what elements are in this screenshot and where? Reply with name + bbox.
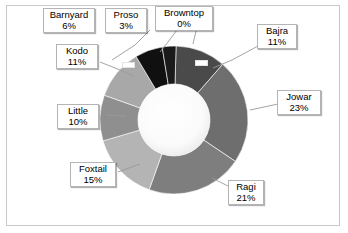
callout-little[interactable]: Little 10% (57, 104, 99, 129)
callout-barnyard-percent: 6% (47, 21, 91, 32)
callout-kodo-percent: 11% (60, 57, 94, 68)
callout-jowar-name: Jowar (281, 92, 317, 103)
callout-ragi-name: Ragi (232, 182, 260, 193)
callout-ragi-percent: 21% (232, 193, 260, 204)
leader-line-bajra (213, 46, 258, 68)
callout-foxtail-name: Foxtail (74, 164, 112, 175)
callout-bajra-percent: 11% (261, 37, 293, 48)
callout-barnyard[interactable]: Barnyard 6% (43, 8, 95, 33)
callout-proso-name: Proso (109, 10, 143, 21)
slice-marker-kodo (122, 62, 135, 68)
leader-line-browntop (193, 31, 196, 44)
callout-ragi[interactable]: Ragi 21% (228, 180, 264, 205)
callout-barnyard-name: Barnyard (47, 10, 91, 21)
callout-little-name: Little (61, 106, 95, 117)
slice-marker-bajra (195, 60, 208, 66)
callout-bajra[interactable]: Bajra 11% (257, 24, 297, 49)
callout-little-percent: 10% (61, 117, 95, 128)
callout-proso-percent: 3% (109, 21, 143, 32)
callout-browntop-percent: 0% (159, 19, 209, 30)
callout-bajra-name: Bajra (261, 26, 293, 37)
callout-proso[interactable]: Proso 3% (105, 8, 147, 33)
callout-jowar[interactable]: Jowar 23% (277, 90, 321, 115)
callout-foxtail-percent: 15% (74, 175, 112, 186)
chart-figure: Barnyard 6% Proso 3% Browntop 0% Bajra 1… (0, 0, 348, 233)
leader-line-jowar (250, 104, 278, 110)
callout-kodo[interactable]: Kodo 11% (56, 44, 98, 69)
donut-chart: Barnyard 6% Proso 3% Browntop 0% Bajra 1… (0, 0, 348, 233)
callout-jowar-percent: 23% (281, 103, 317, 114)
callout-browntop[interactable]: Browntop 0% (155, 6, 213, 31)
callout-browntop-name: Browntop (159, 8, 209, 19)
donut-hole (138, 84, 210, 156)
callout-kodo-name: Kodo (60, 46, 94, 57)
callout-foxtail[interactable]: Foxtail 15% (70, 162, 116, 187)
